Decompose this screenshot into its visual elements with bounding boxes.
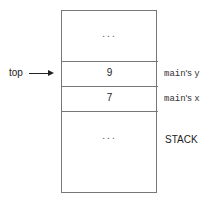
label-main-x: main's x bbox=[164, 93, 200, 104]
cell-main-x: 7 bbox=[61, 92, 158, 103]
stack-label: STACK bbox=[165, 134, 198, 145]
cell-divider bbox=[61, 111, 158, 112]
label-name: y bbox=[194, 69, 199, 79]
top-pointer-label: top bbox=[9, 67, 23, 78]
label-main-y: main's y bbox=[164, 68, 200, 79]
ellipsis-bottom: ... bbox=[61, 130, 158, 141]
label-var: main bbox=[164, 69, 186, 79]
cell-divider bbox=[61, 86, 158, 87]
ellipsis-top: ... bbox=[61, 28, 158, 39]
arrow-head-icon bbox=[48, 70, 54, 76]
cell-main-y: 9 bbox=[61, 67, 158, 78]
label-var: main bbox=[164, 94, 186, 104]
label-name: x bbox=[194, 94, 199, 104]
cell-divider bbox=[61, 61, 158, 62]
